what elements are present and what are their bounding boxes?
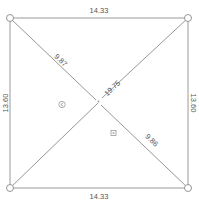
diagonal-top-left-label: 9.87 bbox=[52, 52, 69, 69]
left-edge-label: 13.60 bbox=[1, 94, 10, 113]
square-marker-icon[interactable] bbox=[111, 131, 116, 136]
center-point-icon bbox=[98, 101, 100, 103]
triangle-marker-icon[interactable] bbox=[59, 101, 65, 107]
diagram-canvas: 14.33 14.33 13.60 13.60 9.87 19.75 9.86 bbox=[0, 0, 199, 205]
right-edge-label: 13.60 bbox=[189, 94, 198, 113]
bottom-edge-label: 14.33 bbox=[90, 192, 109, 201]
vertex-top-left-icon[interactable] bbox=[7, 15, 14, 22]
diagonal-bottom-left-segment[interactable] bbox=[10, 103, 98, 188]
vertex-bottom-left-icon[interactable] bbox=[7, 185, 14, 192]
vertex-bottom-right-icon[interactable] bbox=[185, 185, 192, 192]
top-edge-label: 14.33 bbox=[90, 6, 109, 15]
vertex-top-right-icon[interactable] bbox=[185, 15, 192, 22]
diagonal-bottom-right-segment[interactable] bbox=[101, 105, 188, 188]
diagonal-bottom-right-label: 9.86 bbox=[143, 132, 160, 149]
